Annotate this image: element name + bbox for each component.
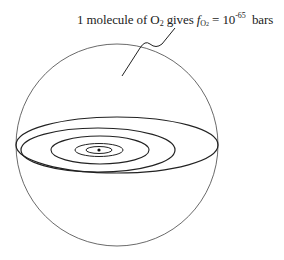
sphere-diagram [0,0,284,260]
center-dot [97,148,100,151]
orbit-ellipse-1 [16,117,218,173]
sphere-outline [16,44,218,246]
leader-line [122,28,175,76]
